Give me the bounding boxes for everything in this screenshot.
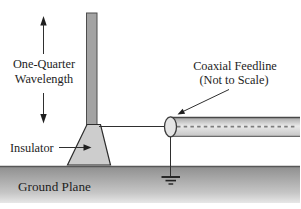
coax-label-line2: (Not to Scale): [200, 73, 269, 87]
ground-plane: Ground Plane: [0, 167, 300, 204]
insulator: Insulator: [10, 125, 111, 166]
arrow-down-left-icon: [178, 109, 186, 115]
coax-label-line1: Coaxial Feedline: [193, 59, 277, 73]
coax-pointer-line: [183, 90, 229, 112]
coaxial-feedline: Coaxial Feedline (Not to Scale): [165, 59, 301, 137]
wavelength-label-line2: Wavelength: [15, 72, 73, 86]
antenna-diagram: Ground Plane One-Quarter Wavelength Insu…: [0, 0, 300, 209]
ground-plane-label: Ground Plane: [18, 179, 91, 194]
insulator-shape: [68, 125, 111, 166]
antenna-element: [87, 13, 98, 125]
wavelength-label-line1: One-Quarter: [13, 57, 75, 71]
ground-connection: [162, 137, 181, 184]
arrow-down-icon: [40, 114, 46, 124]
coax-end-cap: [165, 117, 177, 137]
insulator-label: Insulator: [10, 141, 54, 155]
antenna-diagram-canvas: Ground Plane One-Quarter Wavelength Insu…: [0, 0, 300, 209]
quarter-wavelength-dimension: One-Quarter Wavelength: [13, 16, 75, 124]
